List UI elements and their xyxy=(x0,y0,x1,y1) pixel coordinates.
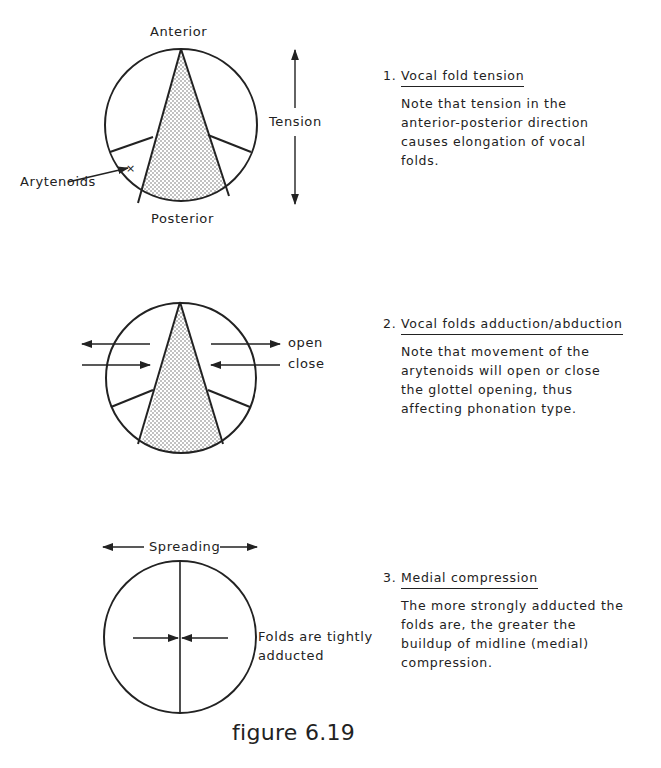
item-title: Medial compression xyxy=(401,570,538,589)
item-body: Note that tension in the anterior-poster… xyxy=(401,94,589,170)
glottis-wedge xyxy=(138,302,225,456)
anterior-label: Anterior xyxy=(150,24,207,39)
item-1-vocal-fold-tension: 1. Vocal fold tension Note that tension … xyxy=(383,68,589,170)
svg-text:×: × xyxy=(126,162,135,175)
body-line: buildup of midline (medial) xyxy=(401,634,624,653)
glottis-wedge xyxy=(138,49,230,203)
body-line: compression. xyxy=(401,653,624,672)
item-number: 3. xyxy=(383,570,401,585)
tension-label: Tension xyxy=(269,114,322,129)
open-label: open xyxy=(288,335,323,350)
arytenoids-label: Arytenoids xyxy=(20,174,96,189)
item-title: Vocal folds adduction/abduction xyxy=(401,316,623,335)
item-2-adduction-abduction: 2. Vocal folds adduction/abduction Note … xyxy=(383,316,623,418)
adducted-label: adducted xyxy=(258,648,324,663)
left-arytenoid-line xyxy=(111,390,153,407)
body-line: affecting phonation type. xyxy=(401,399,623,418)
body-line: causes elongation of vocal xyxy=(401,132,589,151)
spreading-label: Spreading xyxy=(149,539,220,554)
body-line: folds are, the greater the xyxy=(401,615,624,634)
posterior-label: Posterior xyxy=(151,211,214,226)
diagram-2-glottis-adduction xyxy=(82,302,280,456)
item-title: Vocal fold tension xyxy=(401,68,524,87)
body-line: anterior-posterior direction xyxy=(401,113,589,132)
item-body: Note that movement of the arytenoids wil… xyxy=(401,342,623,418)
body-line: Note that tension in the xyxy=(401,94,589,113)
body-line: Note that movement of the xyxy=(401,342,623,361)
item-number: 1. xyxy=(383,68,401,83)
close-label: close xyxy=(288,356,324,371)
left-arytenoid-line xyxy=(110,137,153,152)
body-line: folds. xyxy=(401,151,589,170)
item-3-medial-compression: 3. Medial compression The more strongly … xyxy=(383,570,624,672)
folds-tightly-label: Folds are tightly xyxy=(258,629,373,644)
figure-caption: figure 6.19 xyxy=(232,720,355,745)
body-line: The more strongly adducted the xyxy=(401,596,624,615)
item-number: 2. xyxy=(383,316,401,331)
item-body: The more strongly adducted the folds are… xyxy=(401,596,624,672)
body-line: the glottel opening, thus xyxy=(401,380,623,399)
right-arytenoid-line xyxy=(208,390,250,407)
body-line: arytenoids will open or close xyxy=(401,361,623,380)
diagram-1-glottis-tension: × xyxy=(68,49,295,204)
diagram-3-medial-compression xyxy=(103,547,257,713)
